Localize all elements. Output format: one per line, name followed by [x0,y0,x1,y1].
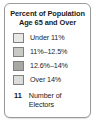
legend-class-label: Over 14% [30,76,61,84]
legend-color-swatch [13,75,24,85]
legend-title: Percent of Population Age 65 and Over [5,4,90,27]
legend-class-item: 12.6%–14% [5,59,90,73]
legend-color-swatch [13,61,24,71]
map-legend-panel: Percent of Population Age 65 and Over Un… [4,3,91,118]
legend-elector-entry: 11 Number of Electors [5,87,90,109]
legend-class-item: 11%–12.5% [5,45,90,59]
legend-color-swatch [13,47,24,57]
legend-class-item: Over 14% [5,73,90,87]
legend-color-swatch [13,33,24,43]
legend-class-label: 12.6%–14% [30,62,68,70]
legend-class-item: Under 11% [5,31,90,45]
legend-title-line-2: Age 65 and Over [9,19,86,28]
legend-class-list: Under 11% 11%–12.5% 12.6%–14% Over 14% [5,27,90,87]
elector-count-value: 11 [14,92,22,100]
elector-caption: Number of Electors [29,92,62,109]
legend-class-label: Under 11% [30,34,65,42]
elector-caption-line-2: Electors [29,101,62,109]
legend-class-label: 11%–12.5% [30,48,67,56]
